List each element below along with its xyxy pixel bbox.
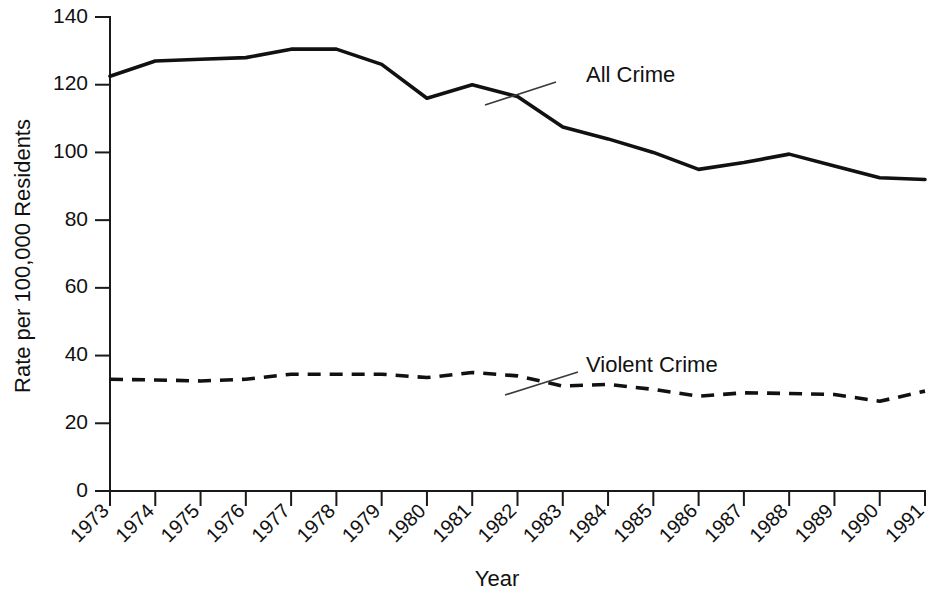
x-tick-label: 1991 xyxy=(881,499,928,546)
x-axis-title: Year xyxy=(475,566,519,591)
series-annotations: All CrimeViolent Crime xyxy=(485,62,718,395)
x-tick-label: 1978 xyxy=(292,499,339,546)
series-label-all-crime: All Crime xyxy=(586,62,675,87)
x-axis-ticks: 1973197419751976197719781979198019811982… xyxy=(66,491,928,546)
y-tick-label: 60 xyxy=(65,274,88,297)
x-tick-label: 1983 xyxy=(519,499,566,546)
series-group xyxy=(110,49,925,401)
y-tick-label: 0 xyxy=(76,478,88,501)
series-label-violent-crime: Violent Crime xyxy=(586,352,718,377)
x-tick-label: 1976 xyxy=(202,499,249,546)
x-tick-label: 1973 xyxy=(66,499,113,546)
x-tick-label: 1981 xyxy=(428,499,475,546)
y-tick-label: 40 xyxy=(65,342,88,365)
x-tick-label: 1980 xyxy=(383,499,430,546)
x-tick-label: 1977 xyxy=(247,499,294,546)
series-line-all-crime xyxy=(110,49,925,179)
y-tick-label: 20 xyxy=(65,410,88,433)
x-tick-label: 1990 xyxy=(836,499,883,546)
series-line-violent-crime xyxy=(110,373,925,402)
annotation-leader-line xyxy=(485,82,556,105)
y-tick-label: 140 xyxy=(53,4,88,27)
y-axis-ticks: 020406080100120140 xyxy=(53,4,110,501)
x-tick-label: 1975 xyxy=(156,499,203,546)
x-tick-label: 1985 xyxy=(609,499,656,546)
x-tick-label: 1988 xyxy=(745,499,792,546)
x-tick-label: 1979 xyxy=(337,499,384,546)
y-tick-label: 100 xyxy=(53,139,88,162)
x-tick-label: 1974 xyxy=(111,499,158,546)
line-chart: Rate per 100,000 Residents 0204060801001… xyxy=(0,0,938,592)
y-tick-label: 80 xyxy=(65,207,88,230)
x-tick-label: 1982 xyxy=(473,499,520,546)
chart-figure: Rate per 100,000 Residents 0204060801001… xyxy=(0,0,938,592)
x-tick-label: 1989 xyxy=(790,499,837,546)
y-axis-title: Rate per 100,000 Residents xyxy=(10,119,35,393)
x-tick-label: 1987 xyxy=(700,499,747,546)
y-tick-label: 120 xyxy=(53,71,88,94)
x-tick-label: 1986 xyxy=(654,499,701,546)
x-tick-label: 1984 xyxy=(564,499,611,546)
